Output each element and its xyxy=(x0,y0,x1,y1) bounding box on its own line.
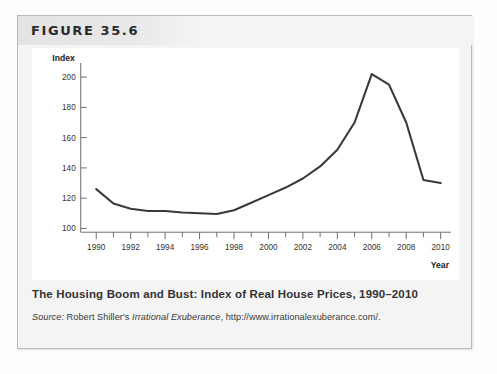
svg-text:1990: 1990 xyxy=(87,243,106,252)
svg-text:200: 200 xyxy=(62,73,76,82)
figure-number-label: FIGURE 35.6 xyxy=(31,23,139,38)
svg-text:1996: 1996 xyxy=(190,243,209,252)
chart-tick-labels: 1001201401601802001990199219941996199820… xyxy=(62,73,450,252)
svg-text:100: 100 xyxy=(62,224,76,233)
svg-text:1998: 1998 xyxy=(225,243,244,252)
line-chart: 1001201401601802001990199219941996199820… xyxy=(32,48,459,280)
chart-series-line xyxy=(96,74,440,214)
figure-source: Source: Robert Shiller's Irrational Exub… xyxy=(32,312,457,322)
svg-text:2004: 2004 xyxy=(328,243,347,252)
chart-plot-panel: 1001201401601802001990199219941996199820… xyxy=(32,48,459,280)
figure-caption: The Housing Boom and Bust: Index of Real… xyxy=(32,288,457,300)
svg-text:2006: 2006 xyxy=(363,243,382,252)
svg-text:140: 140 xyxy=(62,164,76,173)
chart-ticks xyxy=(81,77,441,239)
y-axis-title: Index xyxy=(52,53,75,63)
svg-text:1992: 1992 xyxy=(122,243,141,252)
figure-page: FIGURE 35.6 1001201401601802001990199219… xyxy=(0,0,497,374)
svg-text:2008: 2008 xyxy=(397,243,416,252)
svg-text:2002: 2002 xyxy=(294,243,313,252)
svg-text:1994: 1994 xyxy=(156,243,175,252)
svg-text:160: 160 xyxy=(62,134,76,143)
svg-text:2000: 2000 xyxy=(259,243,278,252)
x-axis-title: Year xyxy=(431,260,450,270)
source-book-title: Irrational Exuberance xyxy=(132,312,220,322)
svg-text:180: 180 xyxy=(62,103,76,112)
source-author: Robert Shiller's xyxy=(64,312,132,322)
svg-text:120: 120 xyxy=(62,194,76,203)
source-prefix: Source: xyxy=(32,312,64,322)
chart-axes xyxy=(81,63,451,232)
figure-card: FIGURE 35.6 1001201401601802001990199219… xyxy=(17,15,472,349)
svg-text:2010: 2010 xyxy=(432,243,451,252)
source-url: , http://www.irrationalexuberance.com/. xyxy=(220,312,380,322)
figure-banner: FIGURE 35.6 xyxy=(18,16,473,45)
